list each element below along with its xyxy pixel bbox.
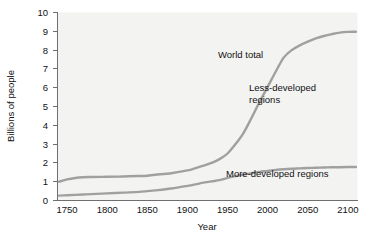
population-growth-figure: 0 1 2 3 4 5 6 7 8 9 10 1750 1800 1850 19… — [0, 0, 371, 237]
ytick-label-6: 6 — [43, 82, 48, 93]
ytick-label-3: 3 — [43, 139, 48, 150]
annotation-less-developed-line2: regions — [249, 94, 280, 105]
xtick-label-1750: 1750 — [57, 204, 78, 215]
ytick-label-0: 0 — [43, 195, 48, 206]
xtick-label-2000: 2000 — [257, 204, 278, 215]
annotation-less-developed-line1: Less-developed — [249, 82, 316, 93]
chart-canvas: 0 1 2 3 4 5 6 7 8 9 10 1750 1800 1850 19… — [0, 0, 371, 237]
ytick-label-1: 1 — [43, 176, 48, 187]
y-axis-ticks — [53, 13, 58, 201]
xtick-label-2100: 2100 — [337, 204, 358, 215]
x-axis-tick-labels: 1750 1800 1850 1900 1950 2000 2050 2100 — [57, 204, 359, 215]
xtick-label-1950: 1950 — [217, 204, 238, 215]
xtick-label-2050: 2050 — [297, 204, 318, 215]
ytick-label-8: 8 — [43, 45, 48, 56]
xtick-label-1900: 1900 — [177, 204, 198, 215]
ytick-label-5: 5 — [43, 101, 48, 112]
ytick-label-7: 7 — [43, 63, 48, 74]
ytick-label-4: 4 — [43, 120, 48, 131]
ytick-label-9: 9 — [43, 26, 48, 37]
y-axis-tick-labels: 0 1 2 3 4 5 6 7 8 9 10 — [37, 7, 48, 206]
xtick-label-1850: 1850 — [137, 204, 158, 215]
y-axis-title: Billions of people — [5, 70, 16, 142]
ytick-label-2: 2 — [43, 157, 48, 168]
x-axis-title: Year — [197, 221, 216, 232]
annotation-world-total: World total — [218, 49, 263, 60]
xtick-label-1800: 1800 — [97, 204, 118, 215]
annotation-more-developed-regions: More-developed regions — [226, 168, 329, 179]
ytick-label-10: 10 — [37, 7, 48, 18]
